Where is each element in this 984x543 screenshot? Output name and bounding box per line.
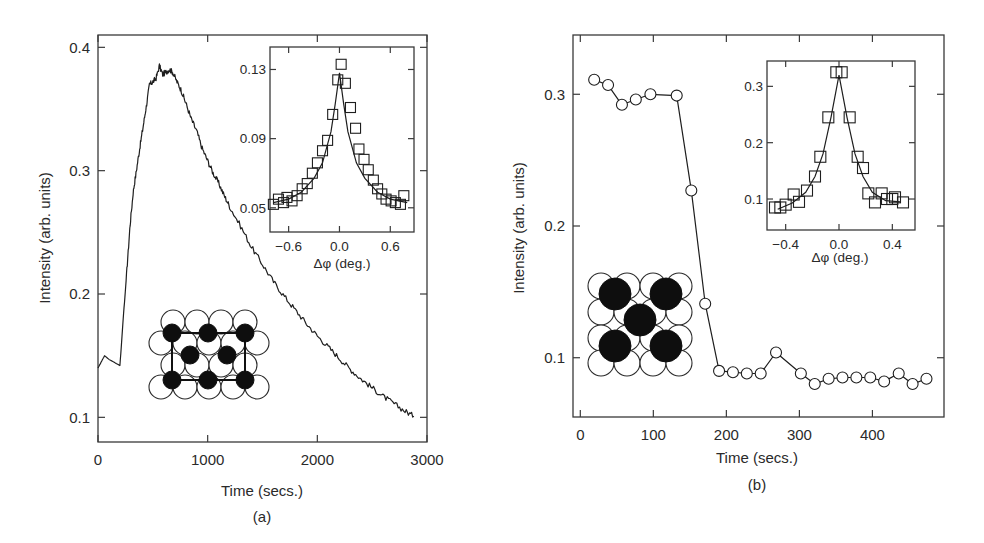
circle-marker (603, 80, 614, 91)
y-tick-label: 0.3 (744, 79, 763, 94)
adsorbate-atom (199, 371, 217, 389)
panel-a-x-axis-label: Time (secs.) (221, 482, 303, 499)
y-tick-label: 0.2 (544, 217, 565, 234)
panel-a-y-axis-label: Intensity (arb. units) (36, 172, 53, 304)
x-tick-label: 0 (576, 426, 584, 443)
x-tick-label: 0 (94, 451, 102, 468)
circle-marker (645, 89, 656, 100)
circle-marker (671, 90, 682, 101)
y-tick-label: 0.3 (544, 86, 565, 103)
circle-marker (921, 373, 932, 384)
y-tick-label: 0.09 (240, 131, 266, 146)
adsorbate-atom (163, 324, 181, 342)
panel-b-inset-square-markers (770, 67, 909, 213)
y-tick-label: 0.3 (69, 162, 90, 179)
y-tick-label: 0.2 (69, 285, 90, 302)
circle-marker (589, 74, 600, 85)
x-tick-label: 0.0 (330, 239, 349, 254)
adsorbate-atom (236, 371, 254, 389)
circle-marker (727, 367, 738, 378)
panel-b-chart: 01002003004000.10.20.3 Intensity (arb. u… (510, 35, 944, 493)
circle-marker (700, 298, 711, 309)
circle-marker (823, 373, 834, 384)
square-marker (345, 103, 355, 113)
square-marker (354, 144, 364, 154)
x-tick-label: 100 (641, 426, 666, 443)
x-tick-label: 0.6 (381, 239, 400, 254)
x-tick-label: 300 (787, 426, 812, 443)
circle-marker (879, 376, 890, 387)
circle-marker (686, 185, 697, 196)
circle-marker (851, 372, 862, 383)
circle-marker (714, 365, 725, 376)
circle-marker (771, 347, 782, 358)
panel-b-inset-tick-labels: −0.40.00.40.10.20.3 (744, 79, 902, 251)
square-marker (307, 168, 317, 178)
circle-marker (741, 368, 752, 379)
y-tick-label: 0.1 (544, 349, 565, 366)
square-marker (359, 154, 369, 164)
y-tick-label: 0.13 (240, 62, 266, 77)
adsorbate-atom (181, 346, 199, 364)
circle-marker (865, 372, 876, 383)
x-tick-label: 3000 (410, 451, 443, 468)
circle-marker (893, 368, 904, 379)
panel-b-lattice-schematic (588, 273, 692, 376)
square-marker (351, 123, 361, 133)
circle-marker (755, 368, 766, 379)
panel-a-caption: (a) (253, 508, 271, 525)
y-tick-label: 0.05 (240, 201, 266, 216)
adsorbate-atom (218, 346, 236, 364)
circle-marker (795, 368, 806, 379)
y-tick-label: 0.1 (744, 192, 763, 207)
panel-b-y-axis-label: Intensity (arb. units) (510, 162, 527, 294)
square-marker (336, 59, 346, 69)
circle-marker (907, 379, 918, 390)
panel-b-x-axis-label: Time (secs.) (716, 449, 798, 466)
panel-b-caption: (b) (748, 476, 766, 493)
x-tick-label: 1000 (191, 451, 224, 468)
adsorbate-atom (163, 371, 181, 389)
y-tick-label: 0.4 (69, 39, 90, 56)
circle-marker (630, 94, 641, 105)
y-tick-label: 0.1 (69, 409, 90, 426)
adsorbate-atom (236, 324, 254, 342)
panel-a-inset-x-axis-label: Δφ (deg.) (314, 256, 371, 271)
adsorbate-atom (599, 330, 631, 362)
x-tick-label: 2000 (301, 451, 334, 468)
circle-marker (616, 99, 627, 110)
adsorbate-atom (599, 278, 631, 310)
panel-a-chart: 01000200030000.10.20.30.4 Intensity (arb… (36, 35, 444, 525)
adsorbate-atom (650, 278, 682, 310)
adsorbate-atom (650, 330, 682, 362)
y-tick-label: 0.2 (744, 136, 763, 151)
x-tick-label: 0.4 (883, 237, 902, 252)
x-tick-label: −0.6 (275, 239, 302, 254)
panel-a-inset-fit-line (273, 73, 407, 203)
adsorbate-atom (624, 304, 656, 336)
x-tick-label: −0.4 (772, 237, 799, 252)
circle-marker (837, 372, 848, 383)
x-tick-label: 200 (714, 426, 739, 443)
panel-b-inset: −0.40.00.40.10.20.3 Δφ (deg.) (744, 61, 915, 265)
adsorbate-atom (199, 324, 217, 342)
figure: 01000200030000.10.20.30.4 Intensity (arb… (0, 0, 984, 543)
circle-marker (809, 379, 820, 390)
x-tick-label: 400 (860, 426, 885, 443)
panel-a-inset: −0.60.00.60.050.090.13 Δφ (deg.) (240, 47, 414, 271)
square-marker (363, 165, 373, 175)
panel-b-inset-x-axis-label: Δφ (deg.) (812, 250, 869, 265)
panel-a-lattice-schematic (149, 310, 269, 399)
